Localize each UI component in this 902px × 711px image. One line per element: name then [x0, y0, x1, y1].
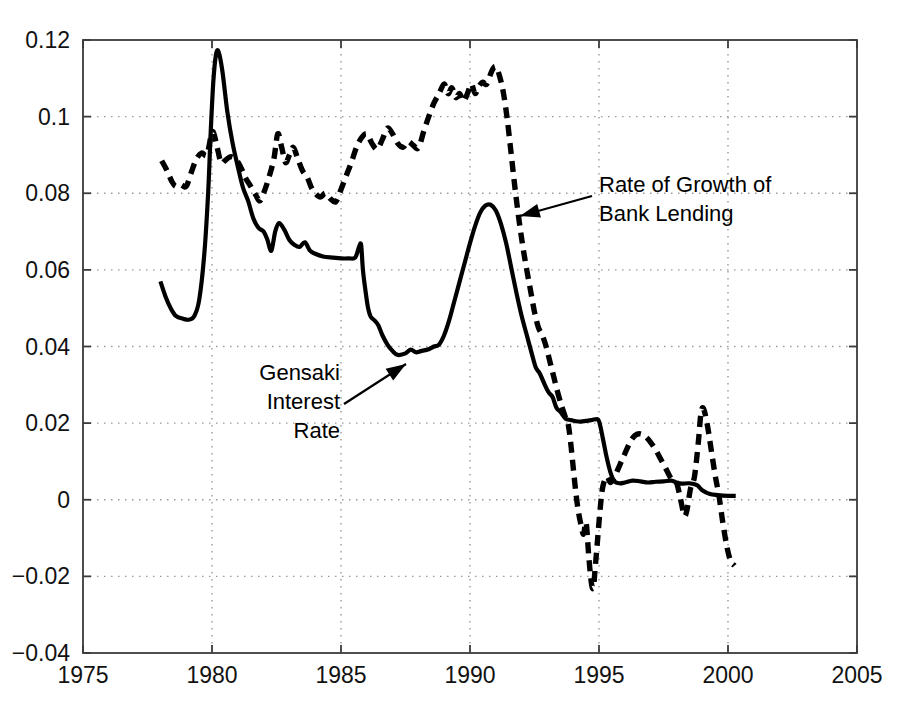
y-tick-label: 0.08 — [25, 180, 70, 206]
chart-figure: 1975198019851990199520002005 0.120.10.08… — [0, 0, 902, 711]
arrowhead-gensaki — [386, 364, 406, 381]
annotations: Rate of Growth of Bank Lending Gensaki I… — [259, 172, 772, 443]
annotation-bank-lending: Rate of Growth of Bank Lending — [520, 172, 772, 226]
annotation-gensaki-line1: Gensaki — [259, 360, 340, 385]
x-tick-label: 1985 — [315, 662, 366, 688]
x-tick-label: 1980 — [186, 662, 237, 688]
x-tick-label: 2005 — [831, 662, 882, 688]
annotation-bank-lending-line1: Rate of Growth of — [599, 172, 772, 197]
y-tick-label: 0 — [57, 487, 70, 513]
y-tick-label: −0.02 — [12, 563, 70, 589]
y-tick-label: 0.04 — [25, 334, 70, 360]
y-axis-tick-labels: 0.120.10.080.060.040.020−0.02−0.04 — [12, 27, 70, 666]
annotation-gensaki: Gensaki Interest Rate — [259, 360, 406, 443]
annotation-gensaki-line3: Rate — [294, 418, 340, 443]
y-tick-label: 0.1 — [38, 104, 70, 130]
data-series — [160, 50, 735, 588]
x-tick-label: 1990 — [444, 662, 495, 688]
annotation-gensaki-line2: Interest — [267, 389, 340, 414]
x-axis-tick-labels: 1975198019851990199520002005 — [57, 662, 882, 688]
y-tick-label: −0.04 — [12, 640, 70, 666]
y-tick-label: 0.06 — [25, 257, 70, 283]
y-tick-label: 0.12 — [25, 27, 70, 53]
x-tick-label: 1995 — [573, 662, 624, 688]
annotation-bank-lending-line2: Bank Lending — [599, 201, 734, 226]
y-tick-label: 0.02 — [25, 410, 70, 436]
arrowhead-bank-lending — [520, 204, 541, 217]
grid-lines — [83, 40, 857, 653]
line-chart: 1975198019851990199520002005 0.120.10.08… — [0, 0, 902, 711]
x-tick-label: 2000 — [702, 662, 753, 688]
